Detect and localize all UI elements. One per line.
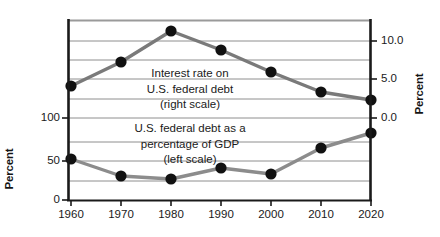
right-axis-title: Percent [413,74,425,115]
data-point [65,153,76,164]
data-point [315,142,326,153]
data-point [215,44,226,55]
x-tick-label-2020: 2020 [348,208,394,220]
x-tick-label-1960: 1960 [48,208,94,220]
debt-gdp-annotation-line-3: (left scale) [110,152,270,168]
data-point [315,86,326,97]
data-point [115,170,126,181]
interest-rate-annotation-line-1: Interest rate on [120,66,260,82]
interest-rate-annotation: Interest rate on U.S. federal debt (righ… [120,66,260,113]
debt-gdp-annotation-line-2: percentage of GDP [110,137,270,153]
x-tick-label-2000: 2000 [248,208,294,220]
left-tick-label-50: 50 [24,154,60,166]
left-axis-title: Percent [3,149,15,190]
chart-plot-area [0,0,440,237]
data-point [265,168,276,179]
x-tick-label-1980: 1980 [148,208,194,220]
right-tick-label-10: 10.0 [381,34,403,46]
data-point [165,25,176,36]
debt-gdp-annotation-line-1: U.S. federal debt as a [110,121,270,137]
x-tick-label-1990: 1990 [198,208,244,220]
left-tick-label-100: 100 [24,111,60,123]
right-tick-label-0: 0.0 [381,111,397,123]
data-point [65,80,76,91]
interest-rate-annotation-line-3: (right scale) [120,97,260,113]
interest-rate-annotation-line-2: U.S. federal debt [120,82,260,98]
data-point [265,66,276,77]
right-tick-label-5: 5.0 [381,72,397,84]
x-tick-label-1970: 1970 [98,208,144,220]
debt-gdp-annotation: U.S. federal debt as a percentage of GDP… [110,121,270,168]
data-point [165,173,176,184]
x-tick-label-2010: 2010 [298,208,344,220]
left-tick-label-0: 0 [24,193,60,205]
chart-figure: Percent 100 50 0 Percent 10.0 5.0 0.0 19… [0,0,440,237]
